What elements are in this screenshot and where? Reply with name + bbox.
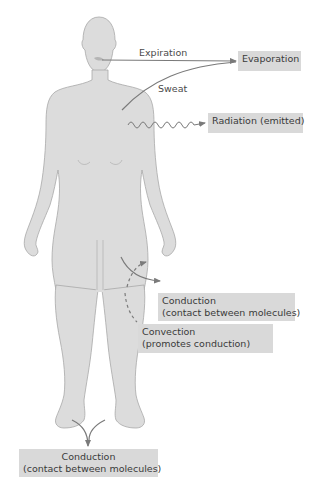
human-body-silhouette (24, 17, 175, 428)
conduction-feet-arrow-right (89, 420, 105, 440)
convection-subtitle: (promotes conduction) (142, 338, 269, 350)
evaporation-label: Evaporation (242, 53, 299, 64)
left-leg (55, 285, 98, 428)
conduction-feet-title: Conduction (23, 451, 154, 463)
expiration-label: Expiration (139, 47, 187, 59)
radiation-label: Radiation (emitted) (212, 115, 304, 126)
expiration-arrow (102, 60, 236, 61)
head (82, 17, 116, 72)
right-leg (102, 285, 145, 428)
diagram-canvas (0, 0, 323, 488)
conduction-leg-subtitle: (contact between molecules) (162, 307, 291, 319)
sweat-label: Sweat (158, 83, 187, 95)
conduction-feet-subtitle: (contact between molecules) (23, 463, 154, 475)
conduction-feet-box: Conduction (contact between molecules) (19, 449, 158, 477)
convection-box: Convection (promotes conduction) (138, 324, 273, 353)
evaporation-box: Evaporation (238, 51, 301, 71)
convection-title: Convection (142, 326, 269, 338)
conduction-leg-title: Conduction (162, 295, 291, 307)
radiation-box: Radiation (emitted) (208, 113, 303, 133)
conduction-leg-box: Conduction (contact between molecules) (158, 293, 295, 321)
